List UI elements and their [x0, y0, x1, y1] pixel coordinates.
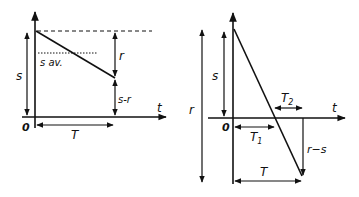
- right-label-origin: 0: [222, 121, 230, 134]
- right-label-r: r: [189, 103, 195, 117]
- right-label-T2: T2: [281, 91, 293, 107]
- left-label-s-minus-r: s-r: [118, 94, 132, 105]
- right-label-T2-subscript: 2: [288, 98, 293, 107]
- left-decline-line: [36, 31, 115, 78]
- right-label-T1: T1: [250, 130, 262, 146]
- left-label-s: s: [16, 69, 22, 83]
- right-label-s: s: [212, 69, 218, 83]
- diagram-canvas: s s av. r s-r 0 t T r s 0 t T1 T2 r−s T: [0, 0, 359, 197]
- right-label-t-axis: t: [332, 101, 338, 115]
- right-diagram: r s 0 t T1 T2 r−s T: [189, 13, 345, 184]
- left-label-s-av: s av.: [40, 57, 63, 68]
- left-label-t-axis: t: [157, 101, 163, 115]
- left-label-T: T: [71, 128, 80, 142]
- right-label-T1-subscript: 1: [257, 137, 262, 146]
- left-label-origin: 0: [22, 121, 30, 134]
- left-label-r: r: [119, 49, 125, 63]
- right-label-r-minus-s: r−s: [307, 143, 327, 156]
- left-diagram: s s av. r s-r 0 t T: [16, 12, 166, 142]
- right-label-T: T: [260, 165, 269, 179]
